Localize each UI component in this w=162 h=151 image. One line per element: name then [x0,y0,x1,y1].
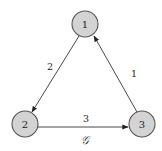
graph-name-label: 𝒢 [81,134,91,147]
edge-1-to-2 [32,36,79,112]
node-1: 1 [72,11,98,37]
graph-diagram: 2 3 1 1 2 3 𝒢 [0,0,162,151]
edge-weight-3-1: 1 [131,68,137,79]
node-2: 2 [12,111,38,137]
node-1-label: 1 [82,19,88,30]
node-2-label: 2 [22,119,28,130]
edge-weight-1-2: 2 [47,61,53,72]
node-3: 3 [129,111,155,137]
node-3-label: 3 [139,119,145,130]
edge-weight-2-3: 3 [83,113,89,124]
